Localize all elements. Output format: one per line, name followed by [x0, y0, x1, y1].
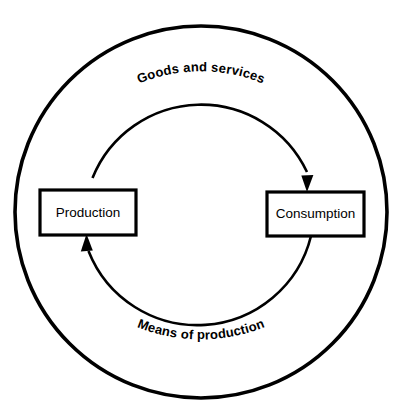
node-production[interactable]: Production [40, 190, 136, 235]
arc-label-means-of-production-text: Means of production [136, 316, 267, 343]
production-label: Production [56, 205, 121, 220]
circular-flow-diagram: Production Consumption Goods and service… [0, 0, 402, 416]
arc-label-goods-and-services: Goods and services [135, 59, 268, 86]
arc-label-goods-and-services-text: Goods and services [135, 59, 268, 86]
flow-arc-goods-and-services [93, 105, 308, 178]
node-consumption[interactable]: Consumption [267, 192, 364, 236]
arrowhead-into-consumption [301, 175, 313, 192]
arc-label-means-of-production: Means of production [136, 316, 267, 343]
consumption-label: Consumption [276, 206, 356, 221]
diagram-canvas: Production Consumption Goods and service… [0, 0, 402, 416]
arrowhead-into-production [81, 234, 93, 252]
flow-arc-means-of-production [89, 236, 312, 325]
